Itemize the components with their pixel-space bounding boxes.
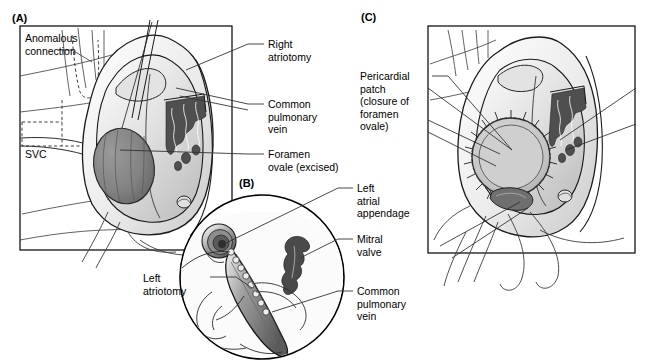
panel-b-letter: (B)	[239, 177, 254, 189]
label-left-atriotomy: Left atriotomy	[143, 272, 213, 297]
panel-a-letter: (A)	[12, 12, 27, 24]
figure-root: (A) (B) (C) Anomalous connection SVC Rig…	[0, 0, 651, 363]
label-right-atriotomy: Right atriotomy	[268, 38, 358, 63]
label-left-atrial-appendage: Left atrial appendage	[357, 182, 437, 220]
coronary-sinus-orifice	[177, 196, 191, 208]
label-svc: SVC	[25, 148, 85, 161]
panel-c-letter: (C)	[361, 11, 376, 23]
label-common-pulmonary-vein-b: Common pulmonary vein	[357, 285, 437, 323]
label-pericardial-patch: Pericardial patch (closure of foramen ov…	[360, 70, 430, 133]
label-foramen-ovale-excised: Foramen ovale (excised)	[268, 148, 360, 173]
label-mitral-valve: Mitral valve	[357, 233, 427, 258]
panel-c-coronary-sinus	[558, 190, 572, 202]
label-anomalous-connection: Anomalous connection	[25, 32, 120, 57]
label-common-pulmonary-vein-a: Common pulmonary vein	[268, 98, 358, 136]
